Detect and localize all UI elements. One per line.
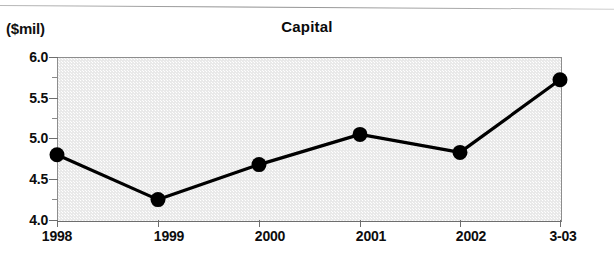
data-series-capital (0, 0, 614, 254)
data-point-2001 (353, 127, 368, 142)
data-point-2002 (453, 145, 468, 160)
data-point-1998 (50, 147, 65, 162)
data-point-3-03 (553, 72, 568, 87)
data-point-2000 (252, 157, 267, 172)
chart-figure: ($mil) Capital 6.0 5.5 5.0 4.5 4.0 1998 … (0, 0, 614, 254)
series-line (57, 80, 560, 200)
bottom-divider (0, 250, 614, 251)
data-point-1999 (151, 192, 166, 207)
